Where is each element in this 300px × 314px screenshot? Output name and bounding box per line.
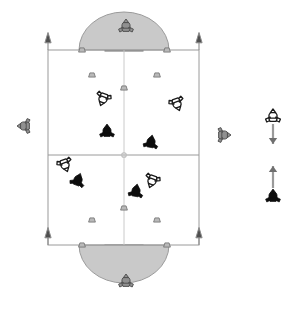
arc-marker-top-1[interactable] xyxy=(79,48,86,52)
arc-marker-bottom-3[interactable] xyxy=(154,218,161,222)
arc-marker-bottom-1[interactable] xyxy=(121,206,128,210)
arc-marker-top-3[interactable] xyxy=(89,73,96,77)
robot-soccer-scene: observer topobserver bottomobserver left… xyxy=(0,0,300,314)
arc-marker-top-2[interactable] xyxy=(164,48,171,52)
arc-marker-bottom-2[interactable] xyxy=(89,218,96,222)
arc-marker-top-5[interactable] xyxy=(121,86,128,90)
arc-marker-top-4[interactable] xyxy=(154,73,161,77)
arc-marker-bottom-5[interactable] xyxy=(164,243,171,247)
field-canvas: observer topobserver bottomobserver left… xyxy=(0,0,300,314)
arc-marker-bottom-4[interactable] xyxy=(79,243,86,247)
